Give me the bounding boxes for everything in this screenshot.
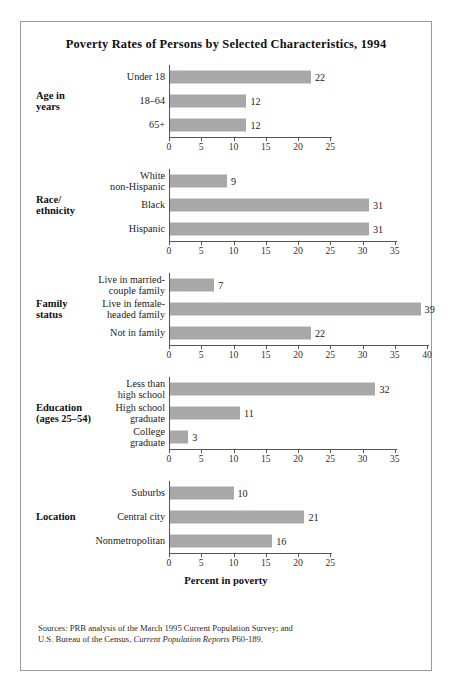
axis-tick-label: 25	[325, 453, 335, 464]
bar-plot-area: 32	[169, 377, 431, 401]
axis-tick-label: 40	[422, 349, 432, 360]
axis-tick-label: 0	[167, 349, 172, 360]
panel-container: Age in yearsUnder 182218–641265+12051015…	[21, 65, 431, 571]
x-axis-line	[169, 137, 332, 138]
bar-rows: Under 182218–641265+12	[21, 65, 431, 137]
bar-rows: Live in married- couple family7Live in f…	[21, 273, 431, 345]
bar	[169, 487, 234, 500]
axis-tick-label: 25	[325, 349, 335, 360]
axis-tick-label: 30	[358, 245, 368, 256]
axis-tick-label: 35	[390, 453, 400, 464]
category-label: Black	[51, 199, 169, 210]
y-axis-line	[169, 377, 170, 449]
bar-value-label: 32	[375, 384, 389, 395]
bar	[169, 383, 375, 396]
source-publication-title: Current Population Reports	[133, 634, 229, 644]
axis-tick-label: 25	[325, 245, 335, 256]
category-label: Live in married- couple family	[51, 274, 169, 296]
bar	[169, 223, 369, 236]
axis-tick-label: 10	[229, 557, 239, 568]
bar-value-label: 22	[311, 328, 325, 339]
category-label: 65+	[51, 119, 169, 130]
bar-plot-area: 31	[169, 217, 431, 241]
bar-row: Live in female- headed family39	[21, 297, 431, 321]
category-label: High school graduate	[51, 402, 169, 424]
axis-tick-label: 5	[199, 245, 204, 256]
bar-row: College graduate3	[21, 425, 431, 449]
bar	[169, 279, 214, 292]
bar-plot-area: 31	[169, 193, 431, 217]
source-line-2-prefix: U.S. Bureau of the Census,	[38, 634, 133, 644]
category-label: White non-Hispanic	[51, 170, 169, 192]
bar	[169, 303, 421, 316]
bar-value-label: 31	[369, 200, 383, 211]
x-axis: 05101520253035	[21, 241, 431, 259]
bar-row: Not in family22	[21, 321, 431, 345]
axis-tick-label: 10	[229, 453, 239, 464]
category-label: 18–64	[51, 95, 169, 106]
panel-body: Education (ages 25–54)Less than high sch…	[21, 377, 431, 467]
bar-value-label: 11	[240, 408, 254, 419]
bar-row: Hispanic31	[21, 217, 431, 241]
bar-plot-area: 10	[169, 481, 431, 505]
bar-row: Less than high school32	[21, 377, 431, 401]
bar	[169, 119, 246, 132]
x-axis-line	[169, 553, 332, 554]
bar-value-label: 16	[272, 536, 286, 547]
source-line-2-suffix: P60-189.	[230, 634, 263, 644]
category-label: Suburbs	[51, 487, 169, 498]
x-axis: 0510152025	[21, 137, 431, 155]
category-label: Not in family	[51, 327, 169, 338]
bar-row: White non-Hispanic9	[21, 169, 431, 193]
panel-body: Race/ ethnicityWhite non-Hispanic9Black3…	[21, 169, 431, 259]
chart-panel: Race/ ethnicityWhite non-Hispanic9Black3…	[21, 169, 431, 259]
figure-frame: Poverty Rates of Persons by Selected Cha…	[20, 21, 432, 671]
axis-tick-label: 0	[167, 453, 172, 464]
bar-value-label: 3	[188, 432, 197, 443]
axis-tick-label: 5	[199, 349, 204, 360]
x-axis: 0510152025303540	[21, 345, 431, 363]
axis-tick-label: 35	[390, 245, 400, 256]
source-line-1: Sources: PRB analysis of the March 1995 …	[38, 623, 293, 633]
bar-value-label: 22	[311, 72, 325, 83]
x-axis: 05101520253035	[21, 449, 431, 467]
bar-row: Nonmetropolitan16	[21, 529, 431, 553]
axis-tick-label: 20	[293, 141, 303, 152]
bar-value-label: 39	[421, 304, 435, 315]
axis-tick-label: 15	[261, 349, 271, 360]
bar-value-label: 12	[246, 96, 260, 107]
bar-rows: Suburbs10Central city21Nonmetropolitan16	[21, 481, 431, 553]
bar-value-label: 10	[234, 488, 248, 499]
y-axis-line	[169, 273, 170, 345]
bar-plot-area: 7	[169, 273, 431, 297]
bar	[169, 407, 240, 420]
axis-tick-label: 15	[261, 453, 271, 464]
y-axis-line	[169, 481, 170, 553]
bar	[169, 199, 369, 212]
chart-panel: Age in yearsUnder 182218–641265+12051015…	[21, 65, 431, 155]
y-axis-line	[169, 65, 170, 137]
axis-tick-label: 10	[229, 141, 239, 152]
axis-tick-label: 35	[390, 349, 400, 360]
bar-value-label: 21	[304, 512, 318, 523]
category-label: Central city	[51, 511, 169, 522]
axis-tick-label: 0	[167, 557, 172, 568]
category-label: Live in female- headed family	[51, 298, 169, 320]
bar-row: Live in married- couple family7	[21, 273, 431, 297]
axis-tick-label: 5	[199, 557, 204, 568]
bar-row: Black31	[21, 193, 431, 217]
bar-row: High school graduate11	[21, 401, 431, 425]
axis-tick-label: 0	[167, 245, 172, 256]
bar-row: 65+12	[21, 113, 431, 137]
axis-tick-label: 10	[229, 349, 239, 360]
bar-value-label: 7	[214, 280, 223, 291]
axis-tick-label: 20	[293, 349, 303, 360]
axis-tick-label: 10	[229, 245, 239, 256]
axis-tick-label: 0	[167, 141, 172, 152]
bar-plot-area: 12	[169, 89, 431, 113]
axis-tick-label: 20	[293, 245, 303, 256]
axis-tick-label: 5	[199, 141, 204, 152]
bar	[169, 511, 304, 524]
bar-plot-area: 11	[169, 401, 431, 425]
bar-value-label: 31	[369, 224, 383, 235]
